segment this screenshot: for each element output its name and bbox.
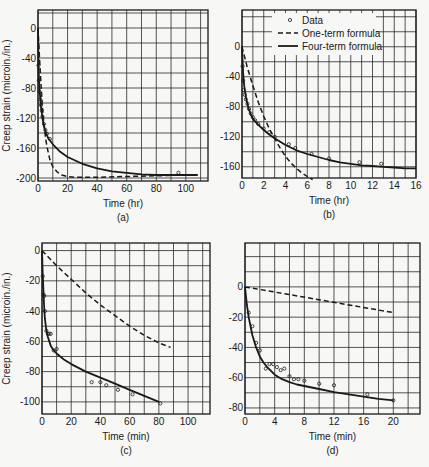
data-point [283,367,286,370]
x-tick-label: 60 [124,416,136,427]
y-tick-label: -60 [26,336,41,347]
data-markers [37,64,180,174]
x-tick-label: 0 [242,416,248,427]
data-point [287,143,290,146]
data-point [358,161,361,164]
x-tick-label: 40 [95,416,107,427]
x-tick-label: 100 [177,183,194,194]
data-point [116,388,119,391]
x-axis-label: Time (min) [102,431,149,442]
data-point [90,381,93,384]
y-tick-label: -20 [229,312,244,323]
y-tick-label: -40 [22,53,37,64]
x-tick-labels: 020406080100 [35,183,194,194]
x-tick-label: 100 [180,416,197,427]
x-tick-label: 40 [92,183,104,194]
grid [38,10,208,181]
plot-frame [38,10,208,181]
x-axis-label: Time (hr) [309,195,349,206]
x-tick-label: 0 [239,180,245,191]
y-tick-label: -40 [229,342,244,353]
panel-label: (c) [120,445,132,456]
legend-four-term-label: Four-term formula [302,41,382,52]
y-tick-label: -80 [229,402,244,413]
grid [245,243,420,414]
y-tick-label: 0 [237,281,243,292]
data-point [380,162,383,165]
x-tick-labels: 020406080100 [39,416,197,427]
panel-label: (b) [323,209,335,220]
x-tick-label: 10 [345,180,357,191]
panel-label: (a) [117,212,129,223]
y-tick-label: -40 [26,306,41,317]
data-point [131,393,134,396]
one-term-curve [42,251,171,348]
legend-one-term-label: One-term formula [302,28,381,39]
x-tick-label: 2 [261,180,267,191]
x-tick-label: 12 [367,180,379,191]
y-tick-label: -200 [16,173,36,184]
data-point [264,367,267,370]
y-tick-label: -160 [16,143,36,154]
data-point [275,365,278,368]
panel-label: (d) [326,445,338,456]
x-tick-label: 16 [410,180,422,191]
x-tick-label: 80 [151,183,163,194]
figure-canvas: 0204060801000-40-80-120-160-200Time (hr)… [0,0,429,467]
x-tick-label: 20 [62,183,74,194]
data-markers [41,275,162,405]
y-tick-labels: 0-40-80-120-160-200 [16,23,36,184]
chart-panel-c: 0204060801000-20-40-60-80-100Time (min)(… [1,243,210,456]
x-tick-label: 16 [358,416,370,427]
x-tick-label: 12 [328,416,340,427]
chart-panel-d: 0481216200-20-40-60-80Time (min)(d) [229,243,420,456]
y-axis-label: Creep strain (microin./in.) [1,39,12,151]
y-tick-label: -120 [220,131,240,142]
x-tick-label: 0 [39,416,45,427]
x-tick-label: 20 [388,416,400,427]
plot-frame [245,243,420,414]
legend-data-label: Data [302,15,324,26]
y-tick-label: -20 [26,275,41,286]
y-tick-label: 0 [30,23,36,34]
four-term-curve [38,28,198,175]
y-tick-label: -80 [26,366,41,377]
y-tick-labels: 0-20-40-60-80-100 [20,245,40,407]
figure-creep-strain-panels: 0204060801000-40-80-120-160-200Time (hr)… [0,0,429,467]
y-tick-labels: 0-40-80-120-160 [220,41,240,172]
x-tick-label: 6 [304,180,310,191]
y-axis-label: Creep strain (microin./in.) [1,272,12,384]
x-tick-label: 0 [35,183,41,194]
x-tick-label: 4 [283,180,289,191]
y-tick-label: 0 [34,245,40,256]
x-tick-label: 60 [121,183,133,194]
chart-panel-a: 0204060801000-40-80-120-160-200Time (hr)… [1,10,208,223]
y-tick-label: -60 [229,372,244,383]
x-tick-label: 8 [326,180,332,191]
x-axis-label: Time (hr) [103,198,143,209]
y-tick-label: 0 [234,41,240,52]
x-axis-label: Time (min) [309,431,356,442]
chart-panel-b: 02468101214160-40-80-120-160Time (hr)(b)… [220,10,422,220]
data-markers [247,311,395,402]
y-tick-label: -80 [22,83,37,94]
y-tick-label: -40 [226,71,241,82]
x-tick-label: 8 [302,416,308,427]
y-tick-label: -120 [16,113,36,124]
y-tick-label: -100 [20,396,40,407]
data-point [177,171,180,174]
x-tick-label: 80 [153,416,165,427]
legend: DataOne-term formulaFour-term formula [272,13,382,55]
y-tick-labels: 0-20-40-60-80 [229,281,244,413]
x-tick-label: 4 [272,416,278,427]
x-tick-label: 14 [389,180,401,191]
data-point [279,369,282,372]
y-tick-label: -80 [226,101,241,112]
y-tick-label: -160 [220,161,240,172]
x-tick-labels: 0246810121416 [239,180,422,191]
x-tick-labels: 048121620 [242,416,399,427]
x-tick-label: 20 [66,416,78,427]
